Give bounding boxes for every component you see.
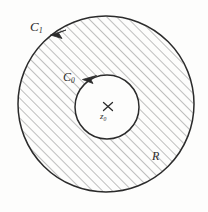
label-inner-contour-c0: C0: [63, 71, 75, 85]
label-c0-subscript: 0: [71, 76, 75, 85]
label-center-point-z0: z0: [100, 112, 106, 122]
label-outer-contour-c1: C1: [30, 20, 43, 35]
label-region-r: R: [152, 150, 159, 162]
label-c0-base: C: [63, 70, 71, 84]
label-c1-base: C: [30, 19, 39, 34]
label-z0-subscript: 0: [104, 116, 107, 122]
label-c1-subscript: 1: [39, 26, 43, 35]
annulus-contour-figure: C1 C0 z0 R: [0, 0, 208, 212]
